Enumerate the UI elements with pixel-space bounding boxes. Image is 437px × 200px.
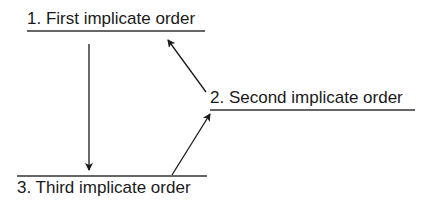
node-first-label: 1. First implicate order	[27, 9, 195, 29]
implicate-order-diagram: 1. First implicate order 2. Second impli…	[0, 0, 437, 200]
arrow-third-to-second	[172, 114, 210, 175]
node-third-label: 3. Third implicate order	[17, 178, 191, 198]
node-second-label: 2. Second implicate order	[210, 88, 403, 108]
arrow-second-to-first	[168, 40, 206, 92]
